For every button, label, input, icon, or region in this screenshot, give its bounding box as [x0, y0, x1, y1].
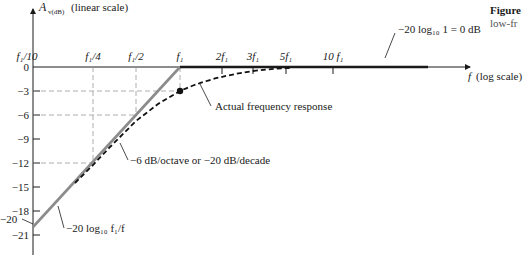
actual-response-annotation: Actual frequency response — [215, 100, 332, 112]
svg-text:−15: −15 — [12, 181, 30, 193]
minus-20-label: −20 — [0, 213, 18, 225]
x-axis-label: f (log scale) — [468, 70, 522, 83]
svg-text:(linear scale): (linear scale) — [71, 1, 128, 14]
figure-caption-title: Figure — [490, 4, 521, 16]
svg-text:v(dB): v(dB) — [48, 8, 65, 16]
svg-text:−12: −12 — [12, 157, 29, 169]
svg-text:f: f — [468, 70, 473, 82]
svg-text:f₁: f₁ — [177, 50, 184, 62]
svg-text:3f₁: 3f₁ — [246, 50, 260, 62]
bode-plot-svg: 0 −3 −6 −9 −12 −15 −18 −21 −20 f₁/10 f₁/… — [0, 0, 523, 259]
y-axis-label: A v(dB) (linear scale) — [38, 0, 128, 16]
leader-lines — [22, 33, 395, 228]
svg-text:−3: −3 — [17, 85, 29, 97]
x-tick-labels: f₁/10 f₁/4 f₁/2 f₁ 2f₁ 3f₁ 5f₁ 10 f₁ — [17, 50, 344, 62]
svg-text:f₁/4: f₁/4 — [85, 50, 101, 62]
svg-text:10 f₁: 10 f₁ — [323, 50, 344, 62]
svg-text:−6: −6 — [17, 109, 29, 121]
minus-3db-point — [177, 88, 183, 94]
svg-text:−9: −9 — [17, 133, 29, 145]
asymptote-annotation: −20 log₁₀ f₁/f — [66, 222, 125, 234]
slope-annotation: −6 dB/octave or −20 dB/decade — [130, 154, 270, 166]
svg-text:f₁/2: f₁/2 — [128, 50, 144, 62]
svg-text:A: A — [38, 0, 47, 14]
zero-db-annotation: −20 log₁₀ 1 = 0 dB — [398, 23, 481, 35]
bode-diagram: 0 −3 −6 −9 −12 −15 −18 −21 −20 f₁/10 f₁/… — [0, 0, 523, 259]
svg-text:0: 0 — [24, 61, 30, 73]
svg-text:(log scale): (log scale) — [476, 70, 522, 83]
figure-caption-text: low-fr — [490, 17, 518, 29]
svg-text:f₁/10: f₁/10 — [17, 50, 38, 62]
svg-text:−21: −21 — [12, 229, 29, 241]
svg-text:2f₁: 2f₁ — [216, 50, 229, 62]
svg-text:5f₁: 5f₁ — [280, 50, 293, 62]
